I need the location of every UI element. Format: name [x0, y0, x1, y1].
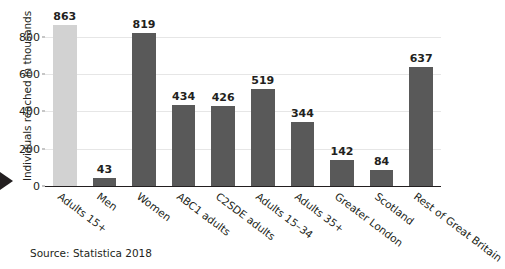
x-axis-line	[45, 186, 441, 187]
bar-value-label: 863	[53, 10, 76, 23]
x-tick-label: Greater London	[333, 190, 406, 249]
bar-slot[interactable]: 637Rest of Great Britain	[409, 18, 433, 186]
bar-slot[interactable]: 142Greater London	[330, 18, 354, 186]
y-tick-label: 0	[33, 180, 40, 193]
bar[interactable]	[409, 67, 433, 186]
source-note: Source: Statistica 2018	[30, 247, 152, 259]
bar-slot[interactable]: 863Adults 15+	[53, 18, 77, 186]
bar-value-label: 637	[410, 52, 433, 65]
bar-slot[interactable]: 43Men	[93, 18, 117, 186]
bar-value-label: 84	[374, 155, 389, 168]
bar[interactable]	[291, 122, 315, 186]
bar[interactable]	[132, 33, 156, 186]
y-tick-mark	[42, 111, 45, 112]
bar-value-label: 344	[291, 107, 314, 120]
bar[interactable]	[172, 105, 196, 186]
y-tick-label: 600	[19, 68, 40, 81]
x-tick-label: Men	[95, 190, 120, 213]
bar-slot[interactable]: 84Scotland	[370, 18, 394, 186]
y-tick-mark	[42, 148, 45, 149]
y-tick-label: 800	[19, 30, 40, 43]
bar[interactable]	[370, 170, 394, 186]
bar-slot[interactable]: 434ABC1 adults	[172, 18, 196, 186]
bar-value-label: 426	[212, 91, 235, 104]
pointer-triangle-icon	[0, 172, 13, 190]
bar-slot[interactable]: 344Adults 35+	[291, 18, 315, 186]
bar-value-label: 434	[172, 90, 195, 103]
bar[interactable]	[211, 106, 235, 186]
x-tick-label: Women	[135, 190, 174, 223]
bar-slot[interactable]: 519Adults 15–34	[251, 18, 275, 186]
bar-value-label: 43	[97, 163, 112, 176]
bar-slot[interactable]: 819Women	[132, 18, 156, 186]
bar[interactable]	[53, 25, 77, 186]
bar-value-label: 519	[251, 74, 274, 87]
bar[interactable]	[330, 160, 354, 187]
bar-value-label: 142	[331, 145, 354, 158]
bar-value-label: 819	[133, 18, 156, 31]
y-tick-mark	[42, 74, 45, 75]
y-tick-mark	[42, 36, 45, 37]
plot-area: 0200400600800 863Adults 15+43Men819Women…	[45, 18, 441, 186]
x-tick-label: Rest of Great Britain	[412, 190, 505, 264]
bar[interactable]	[251, 89, 275, 186]
bar-slot[interactable]: 426C2SDE adults	[211, 18, 235, 186]
y-tick-label: 400	[19, 105, 40, 118]
y-tick-label: 200	[19, 142, 40, 155]
plot-inner: 0200400600800 863Adults 15+43Men819Women…	[45, 18, 441, 186]
